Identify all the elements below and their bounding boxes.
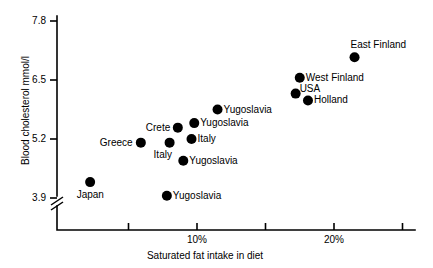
data-point-label: Yugoslavia (173, 190, 221, 201)
data-point-label: Yugoslavia (224, 104, 272, 115)
data-point-label: Yugoslavia (189, 155, 237, 166)
data-point-marker (162, 191, 172, 201)
data-point-label: USA (300, 83, 321, 94)
y-tick-label: 5.2 (2, 133, 46, 144)
data-point-marker (178, 156, 188, 166)
y-tick-label: 6.5 (2, 74, 46, 85)
data-point-label: Crete (146, 122, 170, 133)
data-point-marker (136, 138, 146, 148)
data-point-marker (295, 73, 305, 83)
y-axis-label: Blood cholesterol mmol/l (20, 41, 31, 181)
data-point-label: Italy (154, 149, 172, 160)
data-point-marker (189, 118, 199, 128)
data-point-marker (350, 52, 360, 62)
x-axis-line (57, 206, 415, 230)
scatter-chart-figure: Blood cholesterol mmol/l Saturated fat i… (0, 0, 433, 268)
y-tick-label: 7.8 (2, 15, 46, 26)
data-point-label: Italy (198, 133, 216, 144)
data-point-label: Greece (100, 137, 133, 148)
data-point-label: Holland (314, 94, 348, 105)
data-point-label: East Finland (351, 39, 407, 50)
y-tick-label: 3.9 (2, 192, 46, 203)
data-point-marker (303, 95, 313, 105)
x-tick-group (129, 223, 403, 230)
data-point-marker (187, 134, 197, 144)
data-point-marker (173, 123, 183, 133)
data-point-marker (85, 177, 95, 187)
data-point-marker (165, 138, 175, 148)
data-point-label: West Finland (306, 72, 364, 83)
x-tick-label: 20% (309, 234, 359, 245)
data-point-label: Japan (77, 189, 104, 200)
y-tick-group (50, 21, 57, 198)
x-tick-label: 10% (172, 234, 222, 245)
data-point-marker (213, 105, 223, 115)
x-axis-label: Saturated fat intake in diet (105, 250, 305, 261)
data-point-label: Yugoslavia (200, 117, 248, 128)
